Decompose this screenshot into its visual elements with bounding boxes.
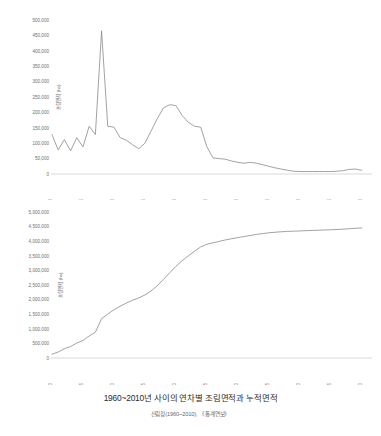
y-tick-label: 0 (46, 356, 49, 361)
y-tick-label: 400,000 (32, 49, 49, 54)
y-tick-label: 4,500,000 (29, 224, 50, 229)
x-tick-label: 1970 (110, 383, 115, 385)
chart-annual-afforestation: 050,000100,000150,000200,000250,000300,0… (0, 4, 381, 200)
y-tick-label: 1,500,000 (29, 312, 50, 317)
y-tick-label: 250,000 (32, 95, 49, 100)
y-tick-label: 100,000 (32, 141, 49, 146)
x-tick-label: 1995 (265, 383, 270, 385)
y-tick-label: 200,000 (32, 110, 49, 115)
x-tick-label: 2005 (327, 383, 332, 385)
caption-title: 1960~2010년 사이의 연차별 조림면적과 누적면적 (0, 392, 381, 405)
series-line (52, 31, 362, 172)
x-tick-label: 1965 (79, 383, 84, 385)
y-tick-label: 500,000 (32, 341, 49, 346)
x-tick-label: 1980 (172, 383, 177, 385)
x-tick-label: 1985 (203, 383, 208, 385)
figure-afforestation: 050,000100,000150,000200,000250,000300,0… (0, 0, 381, 436)
y-axis-title: 조림면적 (ha) (57, 272, 64, 298)
y-tick-label: 450,000 (32, 33, 49, 38)
x-tick-label: 2010 (358, 383, 363, 385)
y-tick-label: 3,000,000 (29, 268, 50, 273)
y-tick-label: 5,000,000 (29, 210, 50, 215)
figure-caption: 1960~2010년 사이의 연차별 조림면적과 누적면적 산림청(1960~2… (0, 392, 381, 420)
series-line (52, 228, 362, 354)
y-tick-label: 2,500,000 (29, 283, 50, 288)
y-tick-label: 1,000,000 (29, 327, 50, 332)
y-tick-label: 350,000 (32, 64, 49, 69)
cumulative-afforestation-plot: 0500,0001,000,0001,500,0002,000,0002,500… (0, 200, 381, 385)
y-tick-label: 500,000 (32, 18, 49, 23)
x-tick-label: 2000 (296, 383, 301, 385)
y-tick-label: 0 (46, 172, 49, 177)
y-tick-label: 2,000,000 (29, 297, 50, 302)
y-tick-label: 300,000 (32, 79, 49, 84)
x-tick-label: 1990 (234, 383, 239, 385)
chart-cumulative-afforestation: 0500,0001,000,0001,500,0002,000,0002,500… (0, 200, 381, 385)
caption-source: 산림청(1960~2010), 《통계연보》 (0, 409, 381, 420)
y-tick-label: 3,500,000 (29, 254, 50, 259)
y-tick-label: 4,000,000 (29, 239, 50, 244)
annual-afforestation-plot: 050,000100,000150,000200,000250,000300,0… (0, 4, 381, 200)
x-tick-label: 1975 (141, 383, 146, 385)
y-tick-label: 50,000 (35, 156, 49, 161)
y-tick-label: 150,000 (32, 126, 49, 131)
y-axis-title: 조림면적 (ha) (55, 84, 62, 110)
x-tick-label: 1960 (48, 383, 53, 385)
